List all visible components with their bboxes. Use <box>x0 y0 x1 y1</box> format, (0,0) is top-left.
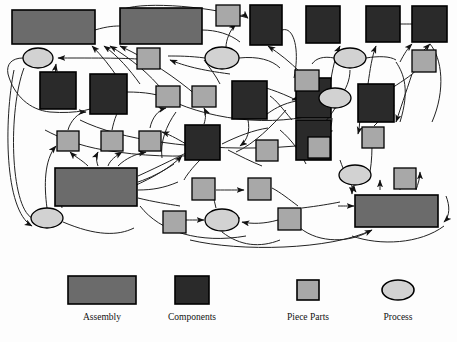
edge <box>270 96 292 120</box>
edge <box>97 152 99 166</box>
edge <box>63 222 134 233</box>
node-piece-parts-P2[interactable] <box>216 5 240 26</box>
node-piece-parts-P15[interactable] <box>248 178 271 200</box>
node-layer <box>12 5 447 233</box>
node-process-R6[interactable] <box>31 208 63 228</box>
edge <box>168 56 205 58</box>
node-components-C1[interactable] <box>40 72 76 109</box>
node-piece-parts-P3[interactable] <box>412 50 436 72</box>
legend-label-process: Process <box>358 312 438 322</box>
node-process-R7[interactable] <box>205 209 239 231</box>
node-piece-parts-P6[interactable] <box>295 70 319 91</box>
node-piece-parts-P16[interactable] <box>278 208 301 230</box>
node-piece-parts-P10[interactable] <box>256 140 278 161</box>
node-process-R4[interactable] <box>319 88 351 108</box>
relationship-network-diagram <box>0 0 457 265</box>
node-components-C6[interactable] <box>412 6 447 42</box>
node-piece-parts-P9[interactable] <box>139 131 161 151</box>
edge <box>366 57 396 60</box>
edge <box>68 112 86 130</box>
node-assembly-A3[interactable] <box>55 168 137 206</box>
node-components-C9[interactable] <box>358 84 394 122</box>
edge <box>92 46 118 78</box>
node-piece-parts-P8[interactable] <box>101 131 123 151</box>
diagram-canvas: Assembly Components Piece Parts Process <box>0 0 457 342</box>
node-components-C7[interactable] <box>232 81 267 119</box>
edge <box>444 196 449 222</box>
edge <box>202 30 240 42</box>
edge <box>8 58 23 74</box>
node-process-R1[interactable] <box>23 48 53 68</box>
edge <box>150 108 166 128</box>
node-piece-parts-P1[interactable] <box>137 48 160 69</box>
edge <box>162 132 186 144</box>
edge <box>302 202 340 208</box>
legend-label-piece-parts: Piece Parts <box>268 312 348 322</box>
edge <box>242 220 278 223</box>
edge <box>282 30 296 78</box>
edge <box>268 46 300 72</box>
legend-swatch-components <box>175 276 209 304</box>
edge <box>138 198 180 206</box>
node-piece-parts-P5[interactable] <box>192 86 216 107</box>
edge <box>226 24 236 47</box>
node-components-C5[interactable] <box>366 6 400 42</box>
edge <box>138 182 178 190</box>
legend-label-assembly: Assembly <box>62 312 142 322</box>
node-assembly-A2[interactable] <box>120 8 202 44</box>
edge <box>204 108 206 124</box>
node-assembly-A1[interactable] <box>12 10 95 44</box>
legend-label-components: Components <box>152 312 232 322</box>
node-process-R5[interactable] <box>339 165 371 185</box>
edge <box>134 156 182 186</box>
node-piece-parts-P7[interactable] <box>57 131 79 151</box>
node-piece-parts-P13[interactable] <box>394 168 416 189</box>
node-process-R2[interactable] <box>205 47 239 69</box>
node-piece-parts-P14[interactable] <box>192 178 215 200</box>
edge <box>95 26 120 30</box>
node-piece-parts-P11[interactable] <box>308 137 330 158</box>
edge <box>8 70 32 226</box>
edge <box>272 188 298 206</box>
node-components-C4[interactable] <box>306 6 340 43</box>
node-components-C10[interactable] <box>185 125 220 160</box>
edge <box>312 57 334 64</box>
node-piece-parts-P4[interactable] <box>156 86 180 107</box>
edge <box>424 44 430 50</box>
edge <box>368 46 376 84</box>
legend-swatch-piece-parts <box>297 280 319 300</box>
edge <box>70 152 88 166</box>
legend-swatch-assembly <box>68 276 136 304</box>
node-components-C2[interactable] <box>90 74 127 114</box>
edge <box>400 44 412 62</box>
node-components-C3[interactable] <box>250 5 282 45</box>
legend-swatch-process <box>382 280 414 300</box>
edge <box>396 62 405 122</box>
edge <box>14 68 32 218</box>
edge <box>184 160 200 180</box>
node-piece-parts-P17[interactable] <box>163 211 186 233</box>
edge <box>239 57 280 68</box>
edge <box>352 226 444 242</box>
node-piece-parts-P12[interactable] <box>362 127 384 148</box>
node-process-R3[interactable] <box>334 48 366 68</box>
node-assembly-A4[interactable] <box>355 195 438 227</box>
